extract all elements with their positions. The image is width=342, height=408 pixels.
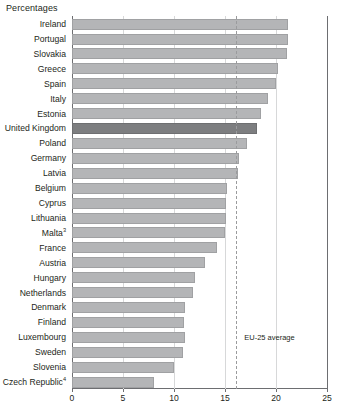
category-label-estonia: Estonia [37, 106, 66, 122]
bar-latvia [72, 168, 238, 179]
bar-united-kingdom [72, 123, 257, 134]
category-label-luxembourg: Luxembourg [18, 329, 66, 345]
category-label-poland: Poland [39, 135, 66, 151]
category-label-france: France [39, 240, 66, 256]
category-label-czech-republic: Czech Republic4 [3, 374, 66, 390]
category-label-greece: Greece [38, 61, 66, 77]
bar-austria [72, 257, 205, 268]
bar-lithuania [72, 213, 226, 224]
bar-portugal [72, 34, 288, 45]
x-tick-label-0: 0 [57, 393, 87, 403]
category-label-finland: Finland [38, 314, 66, 330]
bar-czech-republic [72, 377, 154, 388]
category-label-spain: Spain [44, 76, 66, 92]
x-tick-20 [276, 389, 277, 392]
x-tick-15 [225, 389, 226, 392]
footnote-marker: 4 [63, 376, 66, 382]
category-label-sweden: Sweden [35, 344, 66, 360]
category-label-united-kingdom: United Kingdom [5, 120, 66, 136]
bar-belgium [72, 183, 227, 194]
x-tick-label-5: 5 [108, 393, 138, 403]
footnote-marker: 3 [63, 227, 66, 233]
category-label-netherlands: Netherlands [20, 285, 66, 301]
bar-netherlands [72, 287, 193, 298]
bar-malta [72, 227, 225, 238]
category-label-ireland: Ireland [40, 16, 66, 32]
bar-greece [72, 63, 278, 74]
x-tick-5 [123, 389, 124, 392]
eu-25-average-label: EU-25 average [244, 333, 294, 342]
bar-slovakia [72, 48, 287, 59]
category-label-austria: Austria [39, 255, 66, 271]
bar-chart: Percentages IrelandPortugalSlovakiaGreec… [0, 0, 342, 408]
bar-germany [72, 153, 239, 164]
chart-axis-title: Percentages [6, 3, 58, 13]
category-label-cyprus: Cyprus [39, 195, 66, 211]
bar-sweden [72, 347, 183, 358]
bar-slovenia [72, 362, 174, 373]
category-label-hungary: Hungary [34, 270, 66, 286]
eu-25-average-line [236, 16, 237, 389]
bar-ireland [72, 19, 288, 30]
bar-france [72, 242, 217, 253]
bar-luxembourg [72, 332, 185, 343]
category-label-malta: Malta3 [42, 225, 66, 241]
x-tick-label-20: 20 [261, 393, 291, 403]
category-label-denmark: Denmark [31, 299, 66, 315]
x-tick-label-10: 10 [159, 393, 189, 403]
category-label-lithuania: Lithuania [31, 210, 66, 226]
category-label-slovenia: Slovenia [33, 359, 66, 375]
bar-italy [72, 93, 268, 104]
category-label-portugal: Portugal [34, 31, 66, 47]
bar-spain [72, 78, 276, 89]
category-label-germany: Germany [31, 150, 66, 166]
bar-poland [72, 138, 247, 149]
bar-cyprus [72, 198, 226, 209]
x-tick-10 [174, 389, 175, 392]
category-label-belgium: Belgium [35, 180, 66, 196]
bar-finland [72, 317, 184, 328]
category-label-latvia: Latvia [43, 165, 66, 181]
x-tick-label-15: 15 [210, 393, 240, 403]
x-tick-0 [72, 389, 73, 392]
x-tick-25 [327, 389, 328, 392]
bar-estonia [72, 108, 261, 119]
category-label-slovakia: Slovakia [34, 46, 66, 62]
x-tick-label-25: 25 [312, 393, 342, 403]
category-label-italy: Italy [50, 91, 66, 107]
bar-hungary [72, 272, 195, 283]
bar-denmark [72, 302, 185, 313]
